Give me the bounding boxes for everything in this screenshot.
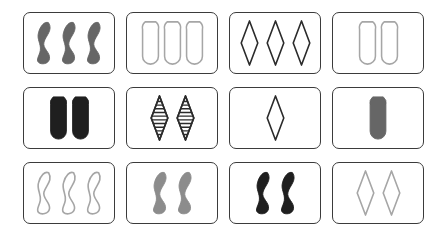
card-2-2[interactable] bbox=[126, 87, 218, 149]
diamond-symbol bbox=[264, 20, 287, 66]
diamond-symbol bbox=[380, 170, 403, 216]
squiggle-symbol bbox=[58, 170, 80, 216]
oval-symbol bbox=[163, 21, 182, 65]
card-1-4[interactable] bbox=[332, 12, 424, 74]
squiggle-symbol bbox=[58, 20, 80, 66]
squiggle-symbol bbox=[149, 170, 171, 216]
card-1-3[interactable] bbox=[229, 12, 321, 74]
card-2-1[interactable] bbox=[23, 87, 115, 149]
diamond-symbol bbox=[238, 20, 261, 66]
card-3-1[interactable] bbox=[23, 162, 115, 224]
card-3-4[interactable] bbox=[332, 162, 424, 224]
oval-symbol bbox=[368, 96, 388, 140]
oval-symbol bbox=[141, 21, 160, 65]
oval-symbol bbox=[185, 21, 204, 65]
diamond-symbol bbox=[264, 95, 287, 141]
squiggle-symbol bbox=[252, 170, 274, 216]
oval-symbol bbox=[358, 21, 377, 65]
squiggle-symbol bbox=[33, 170, 55, 216]
card-3-3[interactable] bbox=[229, 162, 321, 224]
squiggle-symbol bbox=[174, 170, 196, 216]
oval-symbol bbox=[380, 21, 399, 65]
squiggle-symbol bbox=[33, 20, 55, 66]
oval-symbol bbox=[71, 96, 90, 140]
squiggle-symbol bbox=[83, 20, 105, 66]
card-1-2[interactable] bbox=[126, 12, 218, 74]
set-card-board bbox=[0, 0, 448, 243]
card-1-1[interactable] bbox=[23, 12, 115, 74]
diamond-symbol bbox=[174, 95, 197, 141]
card-3-2[interactable] bbox=[126, 162, 218, 224]
card-2-4[interactable] bbox=[332, 87, 424, 149]
squiggle-symbol bbox=[83, 170, 105, 216]
oval-symbol bbox=[49, 96, 68, 140]
squiggle-symbol bbox=[277, 170, 299, 216]
diamond-symbol bbox=[290, 20, 313, 66]
diamond-symbol bbox=[354, 170, 377, 216]
card-grid bbox=[23, 12, 425, 225]
diamond-symbol bbox=[148, 95, 171, 141]
card-2-3[interactable] bbox=[229, 87, 321, 149]
